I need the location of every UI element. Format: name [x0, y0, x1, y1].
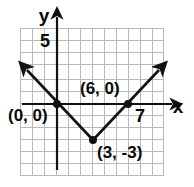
point-label-x-intercept: (6, 0) [80, 79, 120, 98]
y-axis-label: y [39, 5, 50, 26]
x-axis-label: x [173, 96, 184, 117]
coordinate-plane: y x 5 7 (0, 0) (6, 0) (3, -3) [0, 0, 194, 187]
point-x-intercept [124, 100, 132, 108]
x-tick-label-7: 7 [135, 106, 145, 126]
point-label-vertex: (3, -3) [97, 143, 142, 162]
point-label-origin: (0, 0) [8, 106, 48, 125]
graph-screenshot: y x 5 7 (0, 0) (6, 0) (3, -3) [0, 0, 194, 187]
y-tick-label-5: 5 [40, 31, 50, 51]
point-origin [53, 100, 61, 108]
point-vertex [89, 136, 97, 144]
